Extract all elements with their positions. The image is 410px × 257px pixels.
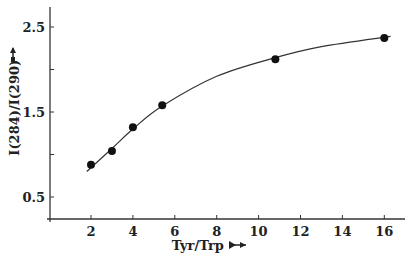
fit-curve-path (87, 36, 391, 171)
data-point (129, 123, 137, 131)
x-tick-label: 14 (333, 224, 351, 239)
x-arrow-icon (229, 241, 246, 249)
x-tick-label: 10 (250, 224, 268, 239)
y-tick-label: 0.5 (22, 190, 45, 205)
data-point (380, 34, 388, 42)
x-tick-label: 4 (128, 224, 137, 239)
x-tick-label: 2 (86, 224, 95, 239)
y-tick-label: 2.5 (22, 20, 45, 35)
data-point (87, 161, 95, 169)
y-tick-label: 1.5 (22, 105, 45, 120)
data-points (87, 34, 388, 169)
x-tick-label: 6 (170, 224, 179, 239)
x-axis-title: Tyr/Trp (172, 238, 224, 253)
x-tick-label: 8 (212, 224, 221, 239)
x-tick-label: 16 (375, 224, 393, 239)
data-point (158, 101, 166, 109)
axes (47, 7, 405, 222)
data-point (271, 55, 279, 63)
y-axis-title: I(284)/I(290) (7, 60, 22, 156)
x-tick-label: 12 (291, 224, 309, 239)
chart: 0.51.52.5246810121416Tyr/TrpI(284)/I(290… (0, 0, 410, 257)
axis-labels: 0.51.52.5246810121416Tyr/TrpI(284)/I(290… (7, 20, 393, 253)
data-point (108, 147, 116, 155)
y-arrow-icon (10, 47, 16, 62)
fit-curve (87, 36, 391, 171)
